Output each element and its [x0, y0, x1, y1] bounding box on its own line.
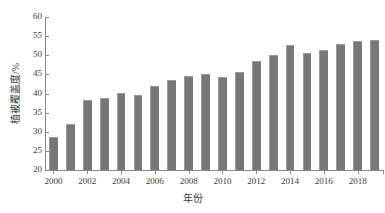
x-axis-tick: [290, 170, 291, 174]
x-axis-tick: [324, 170, 325, 174]
y-axis-tick-label: 45: [20, 69, 42, 78]
vegetation-coverage-bar-chart: 202530354045505560 200020022004200620082…: [0, 0, 385, 213]
x-axis-tick-label: 2014: [273, 176, 307, 186]
y-axis-tick-label: 35: [20, 108, 42, 117]
x-axis-tick-label: 2010: [205, 176, 239, 186]
x-axis-tick-label: 2004: [104, 176, 138, 186]
y-axis-tick-label: 60: [20, 12, 42, 21]
x-axis-tick: [87, 170, 88, 174]
x-axis-tick: [121, 170, 122, 174]
x-axis-tick: [155, 170, 156, 174]
x-axis-tick: [358, 170, 359, 174]
bar: [235, 72, 244, 170]
bar: [303, 53, 312, 170]
x-axis-tick-label: 2016: [307, 176, 341, 186]
bar: [100, 98, 109, 170]
bar: [370, 40, 379, 170]
bar: [66, 124, 75, 170]
bar: [286, 45, 295, 170]
y-axis-tick-label: 50: [20, 50, 42, 59]
x-axis-end-tick: [383, 170, 384, 174]
bar: [252, 61, 261, 170]
bar: [269, 55, 278, 171]
y-axis-tick-label: 20: [20, 165, 42, 174]
x-axis-tick-label: 2006: [138, 176, 172, 186]
y-axis-tick: [45, 170, 49, 171]
bar: [336, 44, 345, 170]
bar: [83, 100, 92, 170]
bar: [319, 50, 328, 170]
x-axis-tick-label: 2018: [341, 176, 375, 186]
x-axis-tick-label: 2012: [239, 176, 273, 186]
x-axis-line: [45, 170, 384, 171]
x-axis-tick: [222, 170, 223, 174]
bar: [201, 74, 210, 170]
plot-area: [45, 17, 383, 170]
x-axis-tick-label: 2000: [36, 176, 70, 186]
x-axis-tick: [189, 170, 190, 174]
x-axis-tick-label: 2008: [172, 176, 206, 186]
bar: [150, 86, 159, 170]
bar: [218, 77, 227, 170]
y-axis-tick-label: 55: [20, 31, 42, 40]
x-axis-tick: [256, 170, 257, 174]
bar: [353, 41, 362, 170]
x-axis-title: 年份: [0, 190, 385, 205]
bar: [167, 80, 176, 170]
y-axis-tick-label: 40: [20, 89, 42, 98]
bar: [49, 137, 58, 170]
bar: [184, 76, 193, 170]
x-axis-tick-label: 2002: [70, 176, 104, 186]
x-axis-tick: [53, 170, 54, 174]
y-axis-tick-label: 25: [20, 146, 42, 155]
bar: [117, 93, 126, 170]
y-axis-tick-label: 30: [20, 127, 42, 136]
y-axis-title: 植被覆盖度/%: [7, 44, 22, 144]
bar: [134, 95, 143, 170]
